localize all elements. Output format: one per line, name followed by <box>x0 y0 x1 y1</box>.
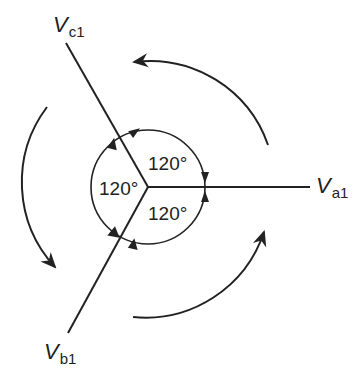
phasor-vb1-line <box>68 187 148 333</box>
phasor-vc1-line <box>66 43 148 187</box>
rotation-arrow-bottom <box>133 232 264 318</box>
rotation-arrow-top <box>134 61 268 145</box>
angle-label-c-b: 120° <box>99 178 138 200</box>
va1-subscript: a1 <box>332 184 349 201</box>
label-vc1: Vc1 <box>53 12 85 40</box>
rotation-arrow-left <box>22 107 55 267</box>
va1-symbol: V <box>316 173 331 198</box>
label-vb1: Vb1 <box>44 339 76 367</box>
phasor-diagram <box>0 0 355 377</box>
vb1-symbol: V <box>44 339 59 364</box>
label-va1: Va1 <box>316 173 348 201</box>
angle-label-a-c: 120° <box>148 153 187 175</box>
vc1-subscript: c1 <box>69 23 85 40</box>
vb1-subscript: b1 <box>60 350 77 367</box>
vc1-symbol: V <box>53 12 68 37</box>
angle-label-b-a: 120° <box>148 203 187 225</box>
